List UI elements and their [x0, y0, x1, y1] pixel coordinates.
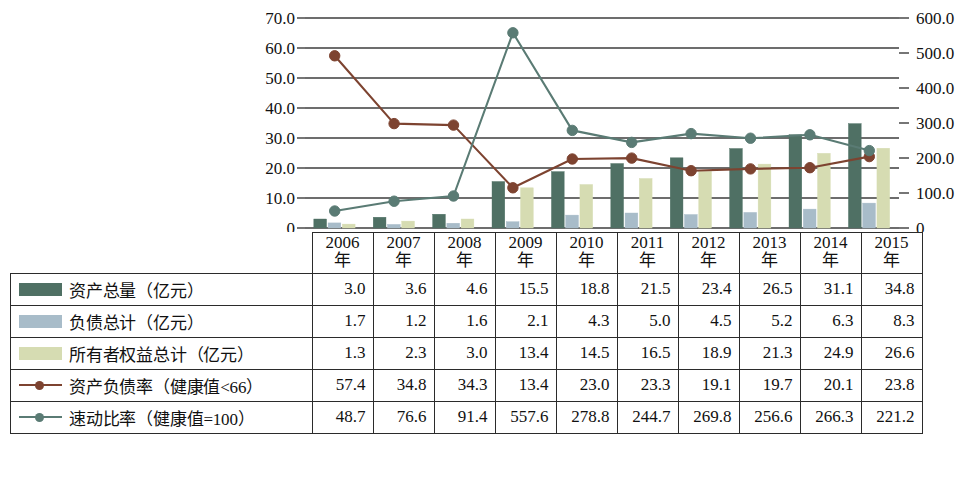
year-suffix: 年: [496, 252, 556, 270]
right-axis-tick-label: 100.0: [916, 184, 954, 203]
year-header-2013: 2013年: [739, 233, 800, 274]
table-cell: 20.1: [800, 369, 861, 401]
bar-0-1: [373, 217, 386, 228]
bar-1-7: [744, 212, 757, 228]
table-cell: 221.2: [861, 401, 922, 433]
line-marker-1-7: [745, 133, 755, 143]
table-cell: 1.7: [312, 305, 373, 337]
year-number: 2008: [435, 234, 495, 252]
series-label: 资产总量（亿元）: [69, 277, 203, 302]
year-header-2006: 2006年: [312, 233, 373, 274]
line-marker-0-5: [627, 153, 637, 163]
table-cell: 26.5: [739, 273, 800, 305]
legend-swatch-icon: [19, 315, 62, 328]
legend-wrap: 负债总计（亿元）: [19, 309, 306, 334]
table-cell: 76.6: [373, 401, 434, 433]
table-cell: 6.3: [800, 305, 861, 337]
table-header-row: 2006年2007年2008年2009年2010年2011年2012年2013年…: [11, 233, 923, 274]
right-axis-tick-label: 200.0: [916, 149, 954, 168]
line-marker-1-4: [567, 125, 577, 135]
bar-2-0: [342, 224, 355, 228]
line-marker-1-2: [448, 191, 458, 201]
left-axis-tick-label: 50.0: [265, 69, 295, 88]
year-number: 2007: [374, 234, 434, 252]
table-cell: 91.4: [434, 401, 495, 433]
table-cell: 1.6: [434, 305, 495, 337]
table-cell: 31.1: [800, 273, 861, 305]
bar-0-8: [789, 135, 802, 228]
year-number: 2006: [313, 234, 373, 252]
chart-page: 010.020.030.040.050.060.070.00100.0200.0…: [0, 0, 958, 479]
bar-2-7: [758, 164, 771, 228]
table-cell: 23.3: [617, 369, 678, 401]
legend-line-marker-icon: [19, 411, 62, 424]
year-header-2011: 2011年: [617, 233, 678, 274]
left-axis-tick-label: 30.0: [265, 129, 295, 148]
legend-swatch-icon: [19, 347, 62, 360]
bar-0-0: [314, 219, 327, 228]
year-suffix: 年: [862, 252, 922, 270]
table-cell: 1.2: [373, 305, 434, 337]
year-header-2015: 2015年: [861, 233, 922, 274]
table-cell: 18.9: [678, 337, 739, 369]
table-cell: 23.0: [556, 369, 617, 401]
table-cell: 48.7: [312, 401, 373, 433]
table-row: 负债总计（亿元）1.71.21.62.14.35.04.55.26.38.3: [11, 305, 923, 337]
year-number: 2015: [862, 234, 922, 252]
series-legend-2: 所有者权益总计（亿元）: [11, 337, 313, 369]
line-marker-0-2: [448, 120, 458, 130]
line-marker-1-9: [864, 145, 874, 155]
series-legend-3: 资产负债率（健康值<66）: [11, 369, 313, 401]
right-axis-tick-label: 0: [916, 219, 925, 232]
line-marker-1-5: [627, 137, 637, 147]
left-axis-tick-label: 60.0: [265, 39, 295, 58]
table-cell: 5.2: [739, 305, 800, 337]
year-header-2010: 2010年: [556, 233, 617, 274]
year-suffix: 年: [740, 252, 800, 270]
bar-1-2: [447, 223, 460, 228]
bar-0-9: [848, 124, 861, 228]
table-corner-cell: [11, 233, 313, 274]
bar-2-5: [639, 179, 652, 229]
right-axis-tick-label: 500.0: [916, 44, 954, 63]
table-cell: 1.3: [312, 337, 373, 369]
table-cell: 23.4: [678, 273, 739, 305]
year-suffix: 年: [557, 252, 617, 270]
table-cell: 5.0: [617, 305, 678, 337]
bar-0-3: [492, 182, 505, 229]
table-cell: 16.5: [617, 337, 678, 369]
line-marker-1-3: [508, 28, 518, 38]
table-cell: 266.3: [800, 401, 861, 433]
table-cell: 278.8: [556, 401, 617, 433]
series-label: 所有者权益总计（亿元）: [69, 341, 254, 366]
table-cell: 557.6: [495, 401, 556, 433]
right-axis-tick-label: 600.0: [916, 9, 954, 28]
bar-1-4: [566, 215, 579, 228]
series-legend-4: 速动比率（健康值=100）: [11, 401, 313, 433]
legend-line-marker-icon: [19, 379, 62, 392]
table-cell: 15.5: [495, 273, 556, 305]
line-marker-0-0: [330, 51, 340, 61]
bar-0-5: [611, 164, 624, 229]
table-cell: 244.7: [617, 401, 678, 433]
table-cell: 19.7: [739, 369, 800, 401]
left-axis-tick-label: 40.0: [265, 99, 295, 118]
table-row: 资产负债率（健康值<66）57.434.834.313.423.023.319.…: [11, 369, 923, 401]
series-legend-1: 负债总计（亿元）: [11, 305, 313, 337]
table-cell: 2.1: [495, 305, 556, 337]
series-label: 负债总计（亿元）: [69, 309, 203, 334]
year-suffix: 年: [801, 252, 861, 270]
year-header-2009: 2009年: [495, 233, 556, 274]
series-label: 速动比率（健康值=100）: [69, 405, 255, 430]
left-axis-tick-label: 70.0: [265, 9, 295, 28]
table-cell: 34.8: [373, 369, 434, 401]
line-marker-0-1: [389, 118, 399, 128]
table-cell: 4.3: [556, 305, 617, 337]
year-number: 2014: [801, 234, 861, 252]
table-cell: 23.8: [861, 369, 922, 401]
bar-1-5: [625, 213, 638, 228]
year-number: 2011: [618, 234, 678, 252]
combo-chart: 010.020.030.040.050.060.070.00100.0200.0…: [0, 0, 958, 232]
legend-wrap: 资产总量（亿元）: [19, 277, 306, 302]
table-body: 2006年2007年2008年2009年2010年2011年2012年2013年…: [11, 233, 923, 434]
